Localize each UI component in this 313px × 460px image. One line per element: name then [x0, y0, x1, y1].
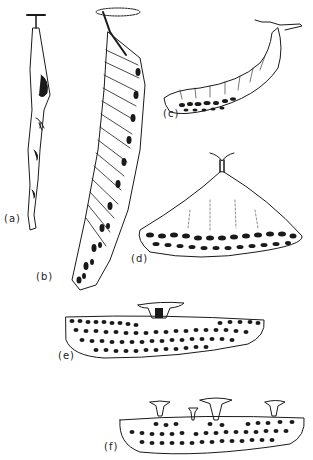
label-b: (b) — [36, 271, 53, 282]
nest-b-drawing — [72, 8, 145, 290]
label-c: (c) — [163, 108, 179, 119]
nest-f-drawing — [120, 398, 304, 454]
nest-c-drawing — [164, 20, 302, 114]
nest-drawings — [0, 0, 313, 460]
label-f: (f) — [104, 441, 118, 452]
nest-a-drawing — [27, 15, 50, 230]
label-d: (d) — [131, 253, 148, 264]
nest-e-drawing — [66, 302, 264, 358]
label-a: (a) — [4, 213, 21, 224]
wasp-nest-figure: (a) (b) (c) (d) (e) (f) — [0, 0, 313, 460]
label-e: (e) — [58, 350, 75, 361]
nest-d-drawing — [139, 153, 302, 257]
